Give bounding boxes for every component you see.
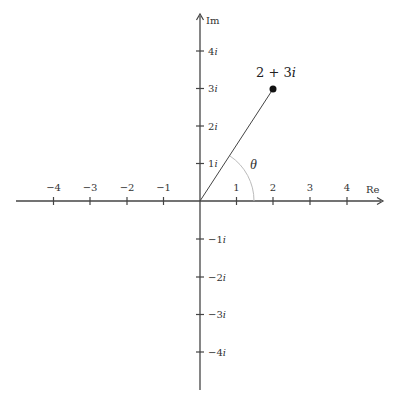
complex-plane-diagram: −4 −3 −2 −1 1 2 3 4 4i 3i 2i 1i −1i −2i …	[0, 0, 399, 406]
real-axis-label: Re	[366, 184, 380, 195]
point-label: 2 + 3i	[256, 65, 296, 80]
y-tick-label: 2i	[208, 121, 218, 132]
x-tick-label: −1	[156, 182, 171, 193]
x-tick-label: 1	[233, 182, 239, 193]
y-tick-label: −3i	[208, 309, 226, 320]
x-tick-label: −2	[120, 182, 135, 193]
x-tick-label: −4	[46, 182, 61, 193]
x-tick-label: 4	[344, 182, 350, 193]
y-tick-label: 4i	[208, 46, 218, 57]
angle-theta-label: θ	[250, 157, 257, 172]
imaginary-axis-label: Im	[206, 15, 220, 26]
y-tick-label: 3i	[208, 83, 218, 94]
y-tick-label: −4i	[208, 347, 226, 358]
y-tick-label: −1i	[208, 234, 226, 245]
x-tick-label: 2	[270, 182, 276, 193]
y-tick-label: 1i	[208, 158, 218, 169]
point-2-plus-3i	[270, 86, 277, 93]
x-tick-label: 3	[307, 182, 313, 193]
y-tick-label: −2i	[208, 272, 226, 283]
x-tick-label: −3	[83, 182, 98, 193]
